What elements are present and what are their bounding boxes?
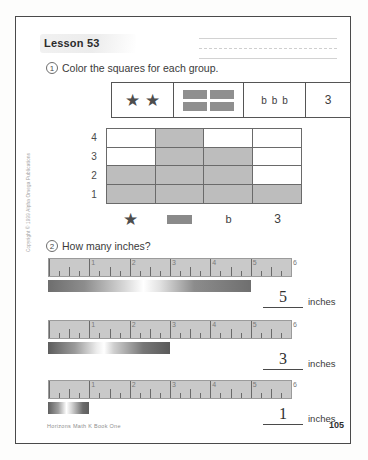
ruler-major-tick bbox=[49, 259, 50, 276]
graph-cell[interactable] bbox=[204, 129, 253, 148]
group-cell-digit: 3 bbox=[306, 83, 350, 117]
ruler-minor-tick bbox=[281, 333, 282, 338]
ruler-minor-tick bbox=[120, 333, 121, 338]
ruler-minor-tick bbox=[200, 393, 201, 398]
ruler-minor-tick bbox=[150, 267, 151, 276]
side-copyright-text: Copyright © 1999 Alpha Omega Publication… bbox=[26, 153, 31, 252]
ruler-minor-tick bbox=[220, 271, 221, 276]
ruler-number-label: 4 bbox=[212, 259, 216, 266]
ruler-number-label: 6 bbox=[293, 321, 297, 328]
graph-grid bbox=[106, 128, 302, 204]
ruler-minor-tick bbox=[99, 333, 100, 338]
ruler-major-tick bbox=[210, 321, 211, 338]
ruler-number-label: 5 bbox=[253, 259, 257, 266]
graph-cell[interactable] bbox=[156, 166, 205, 185]
ruler-number-label: 4 bbox=[212, 381, 216, 388]
graph-cell[interactable] bbox=[253, 129, 302, 148]
ruler-number-label: 3 bbox=[172, 259, 176, 266]
ruler-minor-tick bbox=[69, 267, 70, 276]
graph-cell[interactable] bbox=[253, 166, 302, 185]
graph-cell[interactable] bbox=[204, 166, 253, 185]
ruler-major-tick bbox=[89, 321, 90, 338]
graph-cell[interactable] bbox=[204, 185, 253, 204]
answer-blank-3[interactable]: 1 bbox=[263, 402, 303, 425]
ruler-minor-tick bbox=[281, 393, 282, 398]
ruler-minor-tick bbox=[281, 271, 282, 276]
ruler-minor-tick bbox=[120, 393, 121, 398]
page-title: Lesson 53 bbox=[44, 37, 100, 49]
ruler-1: 123456 bbox=[48, 258, 292, 277]
ruler-minor-tick bbox=[180, 333, 181, 338]
graph-cell[interactable] bbox=[107, 129, 156, 148]
ruler-major-tick bbox=[170, 259, 171, 276]
question-1-number: 1 bbox=[46, 62, 58, 74]
ruler-minor-tick bbox=[271, 267, 272, 276]
answer-3: 1 inches bbox=[263, 402, 335, 425]
graph-cell[interactable] bbox=[156, 148, 205, 167]
ruler-minor-tick bbox=[150, 329, 151, 338]
ruler-major-tick bbox=[170, 321, 171, 338]
rectangle-icon bbox=[167, 215, 192, 224]
ruler-major-tick bbox=[210, 259, 211, 276]
answer-unit-2: inches bbox=[308, 358, 335, 370]
answer-value-3: 1 bbox=[263, 405, 303, 423]
answer-blank-2[interactable]: 3 bbox=[263, 347, 303, 370]
ruler-minor-tick bbox=[241, 333, 242, 338]
ruler-minor-tick bbox=[200, 271, 201, 276]
ruler-major-tick bbox=[89, 259, 90, 276]
graph-cell[interactable] bbox=[204, 148, 253, 167]
ruler-major-tick bbox=[49, 381, 50, 398]
ruler-minor-tick bbox=[79, 333, 80, 338]
ruler-major-tick bbox=[49, 321, 50, 338]
ruler-minor-tick bbox=[220, 393, 221, 398]
graph-cell[interactable] bbox=[253, 148, 302, 167]
ruler-major-tick bbox=[130, 321, 131, 338]
ruler-minor-tick bbox=[261, 333, 262, 338]
graph-cell[interactable] bbox=[253, 185, 302, 204]
ruler-major-tick bbox=[251, 321, 252, 338]
answer-blank-1[interactable]: 5 bbox=[263, 285, 303, 308]
ruler-number-label: 4 bbox=[212, 321, 216, 328]
ruler-number-label: 5 bbox=[253, 381, 257, 388]
measure-bar-2 bbox=[48, 342, 170, 354]
graph-cell[interactable] bbox=[107, 185, 156, 204]
ruler-minor-tick bbox=[99, 393, 100, 398]
graph-category-legend: ★ b 3 bbox=[106, 208, 302, 230]
ruler-minor-tick bbox=[271, 389, 272, 398]
ruler-major-tick bbox=[130, 381, 131, 398]
rectangle-group bbox=[183, 90, 234, 111]
group-cell-stars: ★ ★ bbox=[112, 83, 174, 117]
answer-2: 3 inches bbox=[263, 347, 335, 370]
ruler-minor-tick bbox=[110, 329, 111, 338]
star-icon: ★ bbox=[145, 92, 160, 109]
ruler-number-label: 2 bbox=[132, 381, 136, 388]
ruler-minor-tick bbox=[59, 333, 60, 338]
ruler-number-label: 2 bbox=[132, 321, 136, 328]
ruler-number-label: 3 bbox=[172, 381, 176, 388]
graph-cell[interactable] bbox=[156, 185, 205, 204]
ruler-minor-tick bbox=[241, 393, 242, 398]
question-1-prompt: Color the squares for each group. bbox=[62, 62, 218, 74]
page-number: 105 bbox=[329, 420, 344, 430]
star-icon: ★ bbox=[123, 211, 138, 228]
letter-b-glyph: b bbox=[282, 95, 288, 106]
ruler-minor-tick bbox=[231, 329, 232, 338]
name-writing-lines bbox=[199, 38, 337, 60]
graph-cell[interactable] bbox=[107, 166, 156, 185]
ruler-2: 123456 bbox=[48, 320, 292, 339]
legend-item-star: ★ bbox=[106, 211, 155, 228]
ruler-minor-tick bbox=[140, 393, 141, 398]
ruler-number-label: 1 bbox=[91, 321, 95, 328]
ruler-minor-tick bbox=[160, 393, 161, 398]
ruler-number-label: 5 bbox=[253, 321, 257, 328]
ruler-minor-tick bbox=[261, 393, 262, 398]
graph-cell[interactable] bbox=[156, 129, 205, 148]
ruler-number-label: 3 bbox=[172, 321, 176, 328]
graph-y-axis-labels: 4 3 2 1 bbox=[86, 128, 102, 204]
graph-cell[interactable] bbox=[107, 148, 156, 167]
legend-label: b bbox=[225, 213, 231, 225]
y-axis-tick-label: 4 bbox=[86, 128, 102, 147]
worksheet-page: Lesson 53 1 Color the squares for each g… bbox=[0, 0, 368, 460]
ruler-minor-tick bbox=[231, 389, 232, 398]
question-2-prompt: How many inches? bbox=[62, 240, 151, 252]
